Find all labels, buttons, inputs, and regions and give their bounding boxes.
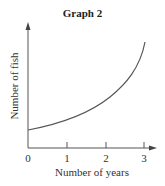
x-axis-label: Number of years (55, 166, 129, 178)
y-axis-arrow-icon (26, 22, 31, 30)
data-curve (28, 42, 145, 130)
x-axis-arrow-icon (149, 146, 157, 151)
y-axis-label: Number of fish (8, 52, 20, 119)
x-tick-label-3: 3 (137, 152, 151, 164)
x-tick-label-1: 1 (60, 152, 74, 164)
x-tick-label-2: 2 (99, 152, 113, 164)
x-tick-label-0: 0 (21, 152, 35, 164)
